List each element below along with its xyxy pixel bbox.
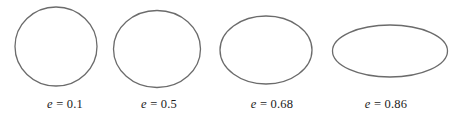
ellipse-label-1: e = 0.5 bbox=[141, 98, 177, 111]
eccentricity-value: = 0.1 bbox=[56, 97, 83, 111]
eccentricity-figure: e = 0.1 e = 0.5 e = 0.68 e = 0.86 bbox=[0, 0, 458, 117]
eccentricity-symbol: e bbox=[365, 97, 371, 111]
ellipse-label-0: e = 0.1 bbox=[47, 98, 83, 111]
eccentricity-symbol: e bbox=[141, 97, 147, 111]
eccentricity-value: = 0.68 bbox=[260, 97, 293, 111]
eccentricity-symbol: e bbox=[251, 97, 257, 111]
eccentricity-symbol: e bbox=[47, 97, 53, 111]
ellipse-label-2: e = 0.68 bbox=[251, 98, 293, 111]
ellipse-label-3: e = 0.86 bbox=[365, 98, 407, 111]
eccentricity-value: = 0.86 bbox=[374, 97, 407, 111]
eccentricity-value: = 0.5 bbox=[150, 97, 177, 111]
